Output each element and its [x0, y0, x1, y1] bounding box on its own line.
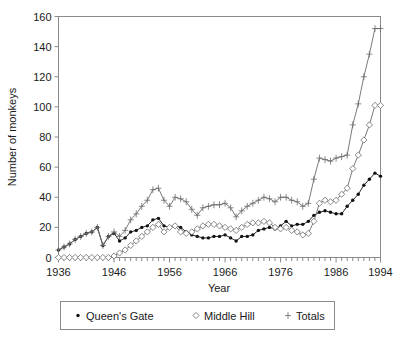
data-point-marker [234, 239, 237, 242]
x-tick-label: 1986 [324, 266, 348, 278]
x-axis-title: Year [208, 282, 231, 294]
y-tick-label: 100 [33, 101, 51, 113]
data-point-marker [262, 227, 265, 230]
data-point-marker [140, 226, 143, 229]
data-point-marker [323, 209, 326, 212]
legend-item-label: Queen's Gate [86, 310, 154, 322]
y-tick-label: 160 [33, 11, 51, 23]
y-tick-label: 40 [39, 191, 51, 203]
x-tick-label: 1966 [213, 266, 237, 278]
data-point-marker [340, 212, 343, 215]
data-point-marker [162, 224, 165, 227]
data-point-marker [218, 235, 221, 238]
data-point-marker [229, 236, 232, 239]
data-point-marker [345, 205, 348, 208]
legend-item-label: Middle Hill [204, 310, 255, 322]
data-point-marker [246, 235, 249, 238]
data-point-marker [284, 220, 287, 223]
data-point-marker [76, 314, 79, 317]
legend-item-queen-s-gate[interactable]: Queen's Gate [76, 310, 153, 322]
data-point-marker [296, 223, 299, 226]
chart-figure: 020406080100120140160 193619461956196619… [0, 0, 411, 341]
y-tick-label: 60 [39, 161, 51, 173]
data-point-marker [240, 235, 243, 238]
data-point-marker [379, 174, 382, 177]
data-point-marker [201, 236, 204, 239]
data-point-marker [329, 211, 332, 214]
data-point-marker [357, 193, 360, 196]
data-point-marker [373, 171, 376, 174]
data-point-marker [157, 217, 160, 220]
chart-legend: Queen's GateMiddle HillTotals [61, 302, 335, 330]
y-tick-label: 80 [39, 131, 51, 143]
data-point-marker [257, 229, 260, 232]
legend-item-label: Totals [296, 310, 325, 322]
data-point-marker [146, 224, 149, 227]
data-point-marker [196, 235, 199, 238]
x-tick-label: 1994 [368, 266, 392, 278]
x-tick-label: 1946 [102, 266, 126, 278]
data-point-marker [318, 211, 321, 214]
data-point-marker [351, 199, 354, 202]
y-tick-label: 0 [45, 252, 51, 264]
data-point-marker [223, 233, 226, 236]
data-point-marker [307, 220, 310, 223]
x-tick-label: 1956 [157, 266, 181, 278]
data-point-marker [123, 236, 126, 239]
y-tick-label: 140 [33, 41, 51, 53]
y-axis-title: Number of monkeys [6, 87, 18, 186]
x-tick-label: 1936 [46, 266, 70, 278]
y-tick-label: 20 [39, 221, 51, 233]
data-point-marker [207, 236, 210, 239]
data-point-marker [212, 235, 215, 238]
x-tick-label: 1976 [268, 266, 292, 278]
chart-background [0, 0, 411, 341]
data-point-marker [301, 223, 304, 226]
data-point-marker [129, 230, 132, 233]
data-point-marker [362, 184, 365, 187]
data-point-marker [135, 229, 138, 232]
y-tick-label: 120 [33, 71, 51, 83]
data-point-marker [334, 212, 337, 215]
data-point-marker [251, 233, 254, 236]
data-point-marker [368, 177, 371, 180]
data-point-marker [151, 218, 154, 221]
monkey-population-line-chart: 020406080100120140160 193619461956196619… [0, 0, 411, 341]
